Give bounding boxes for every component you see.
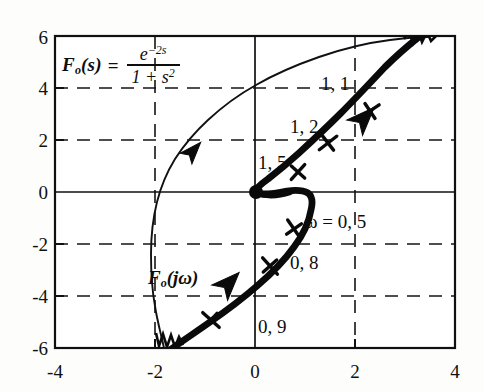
formula-equals-sign: = bbox=[108, 56, 119, 75]
x-tick-label: -2 bbox=[147, 361, 163, 382]
formula-fraction: e−2s 1 + s2 bbox=[127, 44, 180, 86]
x-tick-label: 0 bbox=[250, 361, 260, 382]
label-omega-0-9: 0, 9 bbox=[258, 317, 287, 336]
y-tick-labels: 6 4 2 0 -2 -4 -6 bbox=[32, 27, 48, 359]
y-tick-label: 0 bbox=[39, 182, 49, 203]
y-tick-label: 2 bbox=[39, 130, 49, 151]
x-tick-label: -4 bbox=[47, 361, 63, 382]
x-tick-label: 2 bbox=[350, 361, 360, 382]
formula-left-side: Fo(s) bbox=[62, 55, 102, 76]
label-omega-0-5: ω = 0, 5 bbox=[305, 212, 366, 231]
x-tick-labels: -4 -2 0 2 4 bbox=[47, 361, 460, 382]
y-tick-label: 4 bbox=[39, 78, 49, 99]
x-tick-label: 4 bbox=[450, 361, 460, 382]
label-omega-1-1: 1, 1 bbox=[321, 74, 350, 93]
label-curve-fjw: Fo(jω) bbox=[148, 268, 198, 289]
formula-denominator: 1 + s2 bbox=[127, 66, 180, 86]
label-omega-1-2: 1, 2 bbox=[290, 117, 319, 136]
origin-dot-marker bbox=[249, 185, 263, 199]
nyquist-figure: 6 4 2 0 -2 -4 -6 -4 -2 0 2 4 Fo(s) = e−2… bbox=[0, 0, 484, 392]
formula-numerator: e−2s bbox=[135, 44, 172, 64]
y-tick-label: -2 bbox=[32, 234, 48, 255]
y-tick-label: -6 bbox=[32, 338, 48, 359]
label-omega-1-5: 1, 5 bbox=[258, 153, 287, 172]
y-tick-label: -4 bbox=[32, 286, 48, 307]
label-omega-0-8: 0, 8 bbox=[290, 253, 319, 272]
transfer-function-formula: Fo(s) = e−2s 1 + s2 bbox=[62, 44, 180, 86]
y-tick-label: 6 bbox=[39, 27, 49, 48]
